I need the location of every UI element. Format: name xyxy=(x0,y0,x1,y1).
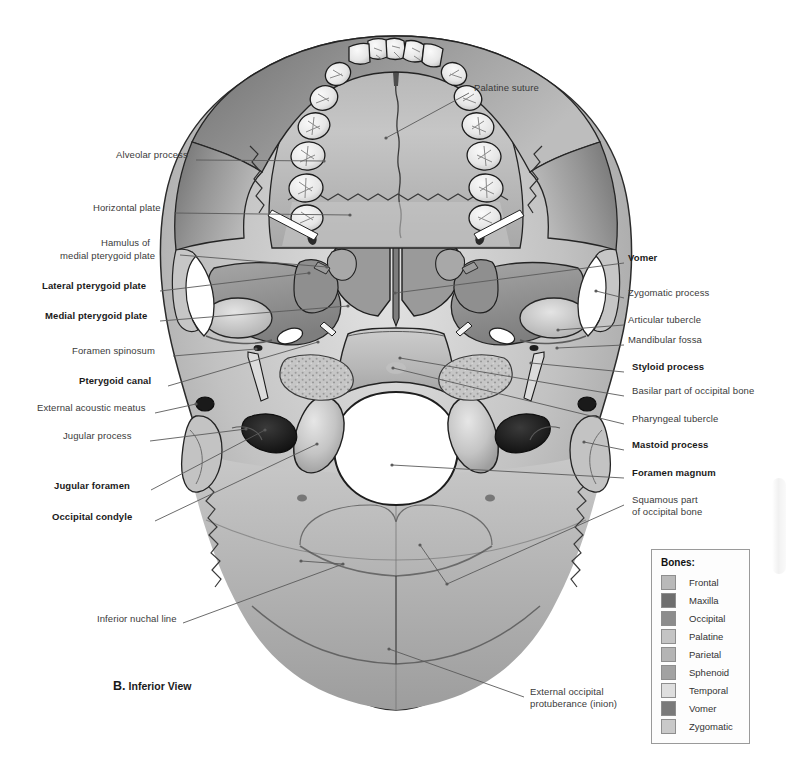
label-squamous-part-occipital-2: of occipital bone xyxy=(632,506,702,517)
foramen-magnum xyxy=(334,392,458,505)
leader-dot-foramen-magnum xyxy=(390,463,393,466)
page-scrollbar[interactable] xyxy=(772,478,786,574)
label-foramen-magnum: Foramen magnum xyxy=(632,467,716,478)
leader-dot-lateral-pterygoid-plate xyxy=(307,271,310,274)
legend-rows: FrontalMaxillaOccipitalPalatineParietalS… xyxy=(661,573,741,735)
label-horizontal-plate: Horizontal plate xyxy=(93,202,161,213)
legend-label-occipital: Occipital xyxy=(689,613,725,624)
leader-dot-mandibular-fossa xyxy=(555,346,558,349)
legend-swatch-palatine xyxy=(661,629,676,644)
legend-label-frontal: Frontal xyxy=(689,577,719,588)
leader-dot-pterygoid-canal xyxy=(316,340,319,343)
label-squamous-part-occipital: Squamous part xyxy=(632,494,698,505)
leader-dot-styloid-process xyxy=(529,361,532,364)
vomer-bone xyxy=(393,243,399,326)
leader-dot-horizontal-plate xyxy=(348,213,351,216)
legend-row-palatine: Palatine xyxy=(661,627,741,645)
label-styloid-process: Styloid process xyxy=(632,361,704,372)
medial-pterygoid-plate-right xyxy=(436,249,465,280)
leader-nuchal-branch-dot xyxy=(299,559,302,562)
label-jugular-process: Jugular process xyxy=(63,430,132,441)
legend-swatch-maxilla xyxy=(661,593,676,608)
medial-pterygoid-plate-left xyxy=(328,249,357,280)
caption-letter: B. xyxy=(113,679,126,693)
leader-dot-zygomatic-process xyxy=(594,289,597,292)
legend-row-vomer: Vomer xyxy=(661,699,741,717)
leader-dot-external-occipital-protuberance xyxy=(387,647,390,650)
legend-label-zygomatic: Zygomatic xyxy=(689,721,733,732)
legend-label-palatine: Palatine xyxy=(689,631,723,642)
legend-swatch-sphenoid xyxy=(661,665,676,680)
legend-row-maxilla: Maxilla xyxy=(661,591,741,609)
legend-row-temporal: Temporal xyxy=(661,681,741,699)
legend-label-parietal: Parietal xyxy=(689,649,721,660)
label-external-acoustic-meatus: External acoustic meatus xyxy=(37,402,146,413)
leader-dot-foramen-spinosum xyxy=(254,347,257,350)
legend-label-sphenoid: Sphenoid xyxy=(689,667,729,678)
legend-swatch-parietal xyxy=(661,647,676,662)
leader-dot-external-acoustic-meatus xyxy=(194,402,197,405)
label-vomer: Vomer xyxy=(628,252,657,263)
label-alveolar-process: Alveolar process xyxy=(116,149,188,160)
label-external-occipital-protuberance: External occipital xyxy=(530,686,604,697)
label-hamulus-medial-pterygoid-2: medial pterygoid plate xyxy=(60,250,155,261)
legend-label-maxilla: Maxilla xyxy=(689,595,719,606)
leader-dot-alveolar-process xyxy=(322,159,325,162)
legend-swatch-frontal xyxy=(661,575,676,590)
label-inferior-nuchal-line: Inferior nuchal line xyxy=(97,613,177,624)
leader-dot-pharyngeal-tubercle xyxy=(391,366,394,369)
leader-dot-basilar-part-occipital xyxy=(398,356,401,359)
legend-swatch-occipital xyxy=(661,611,676,626)
label-zygomatic-process: Zygomatic process xyxy=(628,287,709,298)
foramen-spinosum-right xyxy=(530,345,539,351)
leader-dot-hamulus-medial-pterygoid xyxy=(325,265,328,268)
legend-row-frontal: Frontal xyxy=(661,573,741,591)
leader-dot-mastoid-process xyxy=(582,440,585,443)
label-pterygoid-canal: Pterygoid canal xyxy=(79,375,151,386)
label-basilar-part-occipital: Basilar part of occipital bone xyxy=(632,385,754,396)
legend-swatch-temporal xyxy=(661,683,676,698)
legend-label-vomer: Vomer xyxy=(689,703,716,714)
leader-dot-jugular-foramen xyxy=(263,428,266,431)
label-mandibular-fossa: Mandibular fossa xyxy=(628,334,702,345)
label-mastoid-process: Mastoid process xyxy=(632,439,708,450)
leader-dot-jugular-process xyxy=(244,427,247,430)
label-external-occipital-protuberance-2: protuberance (inion) xyxy=(530,698,617,709)
label-pharyngeal-tubercle: Pharyngeal tubercle xyxy=(632,413,718,424)
legend-row-occipital: Occipital xyxy=(661,609,741,627)
legend-row-zygomatic: Zygomatic xyxy=(661,717,741,735)
leader-dot-medial-pterygoid-plate xyxy=(346,304,349,307)
legend-swatch-zygomatic xyxy=(661,719,676,734)
leader-dot-palatine-suture xyxy=(384,136,387,139)
label-foramen-spinosum: Foramen spinosum xyxy=(72,345,155,356)
leader-dot-vomer xyxy=(393,291,396,294)
legend-row-sphenoid: Sphenoid xyxy=(661,663,741,681)
label-medial-pterygoid-plate: Medial pterygoid plate xyxy=(45,310,148,321)
label-articular-tubercle: Articular tubercle xyxy=(628,314,701,325)
label-occipital-condyle: Occipital condyle xyxy=(52,511,132,522)
caption-text: Inferior View xyxy=(129,680,192,692)
label-lateral-pterygoid-plate: Lateral pterygoid plate xyxy=(42,280,146,291)
label-hamulus-medial-pterygoid: Hamulus of xyxy=(101,237,150,248)
leader-dot-articular-tubercle xyxy=(556,328,559,331)
label-palatine-suture: Palatine suture xyxy=(474,82,539,93)
legend-label-temporal: Temporal xyxy=(689,685,728,696)
figure-caption: B. Inferior View xyxy=(113,679,191,693)
legend-swatch-vomer xyxy=(661,701,676,716)
bones-legend: Bones: FrontalMaxillaOccipitalPalatinePa… xyxy=(651,549,750,744)
legend-title: Bones: xyxy=(661,557,741,568)
legend-row-parietal: Parietal xyxy=(661,645,741,663)
label-jugular-foramen: Jugular foramen xyxy=(54,480,130,491)
leader-dot-occipital-condyle xyxy=(315,442,318,445)
leader-squamous-branch-dot xyxy=(418,543,421,546)
